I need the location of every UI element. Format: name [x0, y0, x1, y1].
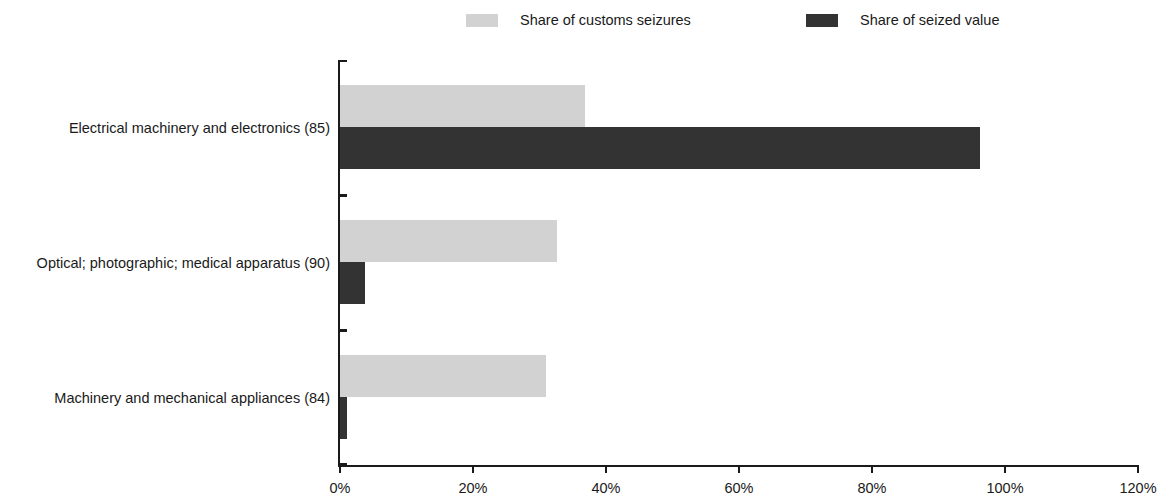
x-axis-tick-label: 120%: [1119, 481, 1156, 496]
category-label: Electrical machinery and electronics (85…: [0, 121, 330, 136]
bar-group: [340, 195, 1138, 330]
category-axis-labels: Electrical machinery and electronics (85…: [0, 60, 330, 465]
legend-label-series-0: Share of customs seizures: [520, 13, 691, 28]
legend-item-share-of-seized-value: Share of seized value: [806, 9, 999, 31]
x-axis-tick-label: 80%: [857, 481, 886, 496]
x-axis-tick: [1137, 465, 1139, 473]
bar-0: [340, 85, 585, 127]
bar-0: [340, 220, 557, 262]
bar-group: [340, 60, 1138, 195]
legend-item-share-of-customs-seizures: Share of customs seizures: [466, 9, 691, 31]
x-axis-tick: [871, 465, 873, 473]
category-label: Optical; photographic; medical apparatus…: [0, 256, 330, 271]
x-axis-tick-label: 20%: [458, 481, 487, 496]
legend-label-series-1: Share of seized value: [860, 13, 999, 28]
x-axis-tick: [339, 465, 341, 473]
x-axis-tick: [1004, 465, 1006, 473]
chart-legend: Share of customs seizures Share of seize…: [0, 0, 1162, 44]
x-axis-tick-label: 60%: [724, 481, 753, 496]
x-axis-tick: [472, 465, 474, 473]
bar-group: [340, 330, 1138, 465]
legend-swatch-icon-series-0: [466, 14, 498, 27]
bar-1: [340, 262, 365, 304]
category-label: Machinery and mechanical appliances (84): [0, 391, 330, 406]
x-axis-tick-label: 0%: [330, 481, 351, 496]
x-axis-tick: [738, 465, 740, 473]
bar-1: [340, 397, 347, 439]
x-axis-tick-label: 40%: [591, 481, 620, 496]
chart-plot-area: 0%20%40%60%80%100%120%: [340, 60, 1138, 465]
bar-0: [340, 355, 546, 397]
bar-1: [340, 127, 980, 169]
x-axis-tick-label: 100%: [986, 481, 1023, 496]
x-axis-tick: [605, 465, 607, 473]
legend-swatch-icon-series-1: [806, 14, 838, 27]
